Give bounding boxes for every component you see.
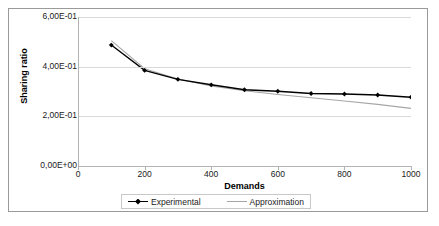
gridline xyxy=(78,17,411,18)
data-point-marker xyxy=(309,91,314,96)
data-point-marker xyxy=(342,92,347,97)
legend-item-approximation[interactable]: Approximation xyxy=(227,197,304,207)
legend-label-approximation: Approximation xyxy=(250,197,304,207)
x-axis-tick-label: 600 xyxy=(271,169,285,179)
x-axis-tick-label: 1000 xyxy=(402,169,421,179)
legend-swatch-experimental-icon xyxy=(128,197,148,206)
gridline xyxy=(78,67,411,68)
x-axis-tick-label: 200 xyxy=(138,169,152,179)
x-axis-title: Demands xyxy=(78,181,411,191)
chart-frame: Sharing ratio 0,00E+002,00E-014,00E-016,… xyxy=(8,8,428,212)
data-point-marker xyxy=(275,89,280,94)
data-point-marker xyxy=(176,77,181,82)
x-axis-tick-label: 400 xyxy=(204,169,218,179)
y-axis-tick-label: 2,00E-01 xyxy=(21,111,77,120)
data-series-layer xyxy=(78,17,411,167)
x-axis-tick-label: 800 xyxy=(337,169,351,179)
chart-legend: Experimental Approximation xyxy=(121,194,311,209)
y-axis-tick-labels: 0,00E+002,00E-014,00E-016,00E-01 xyxy=(17,9,77,213)
y-axis-tick-label: 0,00E+00 xyxy=(21,161,77,170)
legend-label-experimental: Experimental xyxy=(151,197,201,207)
y-axis-tick-label: 4,00E-01 xyxy=(21,62,77,71)
y-axis-tick-label: 6,00E-01 xyxy=(21,12,77,21)
legend-swatch-approximation-icon xyxy=(227,197,247,206)
data-point-marker xyxy=(409,95,411,100)
data-point-marker xyxy=(375,93,380,98)
x-axis-tick-label: 0 xyxy=(76,169,81,179)
series-line-experimental xyxy=(111,45,411,97)
gridline xyxy=(78,116,411,117)
series-line-approximation xyxy=(111,41,411,109)
x-axis-line xyxy=(78,166,411,167)
legend-item-experimental[interactable]: Experimental xyxy=(128,197,201,207)
plot-area xyxy=(78,17,411,166)
y-axis-line xyxy=(78,17,79,167)
chart-plot-wrapper: Sharing ratio 0,00E+002,00E-014,00E-016,… xyxy=(9,9,429,213)
